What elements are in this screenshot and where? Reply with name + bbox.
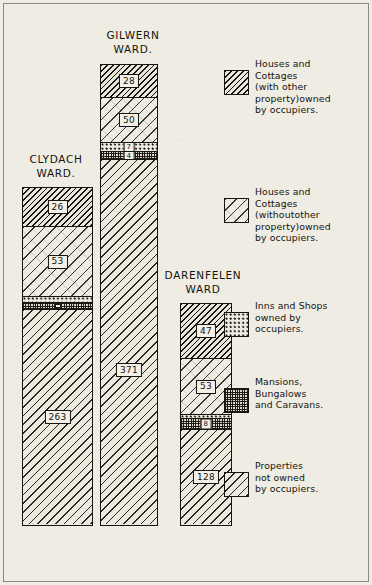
- legend-label: Mansions, Bungalows and Caravans.: [255, 376, 323, 411]
- ward-title-darenfelen: DARENFELEN WARD: [151, 268, 255, 296]
- legend-swatch-dense-hatch-icon: [224, 70, 249, 95]
- bar-clydach[interactable]: 26 53 263: [22, 187, 93, 526]
- legend-item-inns-and-shops[interactable]: Inns and Shops owned by occupiers.: [224, 300, 370, 337]
- segment-clydach-houses-without-other-property[interactable]: 53: [23, 227, 92, 297]
- segment-gilwern-mansions-bungalows-caravans[interactable]: 4: [101, 152, 157, 160]
- legend-item-properties-not-owned[interactable]: Properties not owned by occupiers.: [224, 460, 370, 497]
- segment-value: 53: [47, 255, 67, 269]
- segment-gilwern-houses-without-other-property[interactable]: 50: [101, 98, 157, 143]
- segment-value: 8: [201, 419, 212, 430]
- segment-darenfelen-mansions-bungalows-caravans[interactable]: 8: [181, 419, 231, 430]
- segment-value: 4: [124, 152, 135, 160]
- segment-clydach-mansions-bungalows-caravans[interactable]: [23, 303, 92, 310]
- segment-value: 371: [116, 363, 142, 377]
- segment-value: 26: [47, 200, 67, 214]
- legend-swatch-light-hatch-icon: [224, 198, 249, 223]
- legend-swatch-stipple-icon: [224, 312, 249, 337]
- segment-value: 263: [44, 410, 70, 424]
- chart-stage: CLYDACH WARD. 26 53 263 GILWERN WARD. 28…: [0, 0, 372, 585]
- legend-label: Properties not owned by occupiers.: [255, 460, 318, 495]
- legend-item-houses-without-other-property[interactable]: Houses and Cottages (withoutother proper…: [224, 186, 370, 244]
- segment-value: 28: [119, 74, 139, 88]
- bar-gilwern[interactable]: 28 50 7 4 371: [100, 64, 158, 526]
- legend-swatch-sparse-hatch-icon: [224, 472, 249, 497]
- segment-value: 128: [193, 470, 219, 484]
- legend-item-houses-with-other-property[interactable]: Houses and Cottages (with other property…: [224, 58, 370, 116]
- segment-value: 47: [196, 324, 216, 338]
- legend-label: Houses and Cottages (withoutother proper…: [255, 186, 331, 244]
- legend-label: Houses and Cottages (with other property…: [255, 58, 331, 116]
- segment-gilwern-houses-with-other-property[interactable]: 28: [101, 65, 157, 98]
- segment-clydach-not-owned-by-occupiers[interactable]: 263: [23, 310, 92, 524]
- segment-gilwern-not-owned-by-occupiers[interactable]: 371: [101, 160, 157, 524]
- segment-gilwern-inns-and-shops[interactable]: 7: [101, 143, 157, 152]
- segment-value: [55, 304, 61, 308]
- ward-title-clydach: CLYDACH WARD.: [8, 152, 104, 180]
- segment-value: 7: [124, 143, 135, 152]
- legend-label: Inns and Shops owned by occupiers.: [255, 300, 327, 335]
- segment-clydach-houses-with-other-property[interactable]: 26: [23, 188, 92, 227]
- legend-swatch-cross-hatch-icon: [224, 388, 249, 413]
- segment-value: 50: [119, 113, 139, 127]
- segment-value: 53: [196, 380, 216, 394]
- ward-title-gilwern: GILWERN WARD.: [82, 28, 184, 56]
- legend-item-mansions-bungalows-caravans[interactable]: Mansions, Bungalows and Caravans.: [224, 376, 370, 413]
